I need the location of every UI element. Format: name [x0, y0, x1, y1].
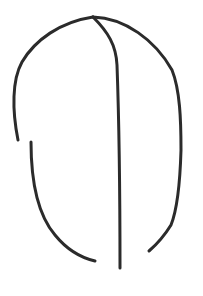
right-arc [93, 17, 181, 251]
left-upper-arc [14, 17, 93, 140]
line-drawing [0, 0, 203, 296]
center-line [93, 17, 120, 268]
sketch-canvas [0, 0, 203, 296]
left-lower-arc [31, 142, 95, 261]
